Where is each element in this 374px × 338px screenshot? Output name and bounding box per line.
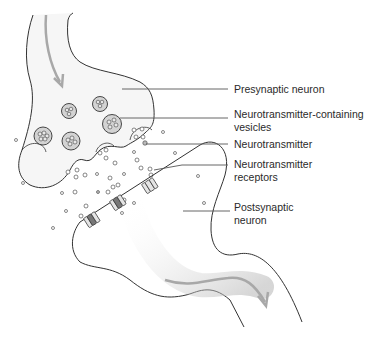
- synapse-illustration: [0, 0, 374, 338]
- label-vesicles: Neurotransmitter-containing vesicles: [234, 108, 364, 134]
- label-postsynaptic-neuron: Postsynaptic neuron: [234, 201, 294, 227]
- label-receptors: Neurotransmitter receptors: [234, 158, 312, 184]
- label-neurotransmitter: Neurotransmitter: [234, 138, 312, 151]
- presynaptic-neuron: [19, 13, 154, 188]
- label-presynaptic-neuron: Presynaptic neuron: [234, 83, 324, 96]
- synapse-diagram: Presynaptic neuron Neurotransmitter-cont…: [0, 0, 374, 338]
